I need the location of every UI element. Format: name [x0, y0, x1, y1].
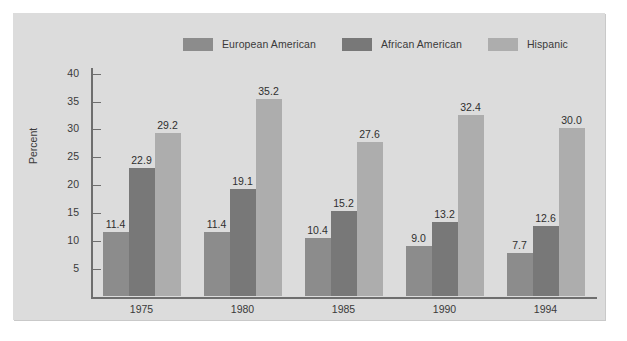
y-tick-label: 10: [67, 234, 79, 246]
bar-group: 11.419.135.21980: [192, 67, 293, 296]
legend-label: African American: [381, 38, 462, 50]
bar[interactable]: 27.6: [357, 142, 383, 296]
y-axis-title: Percent: [27, 128, 39, 164]
bar[interactable]: 32.4: [458, 115, 484, 296]
bar-value-label: 22.9: [131, 154, 151, 166]
bar-value-label: 27.6: [359, 128, 379, 140]
bar-group: 10.415.227.61985: [293, 67, 394, 296]
x-axis-category-label: 1994: [534, 303, 557, 315]
bar-value-label: 12.6: [535, 212, 555, 224]
bar-value-label: 7.7: [512, 239, 527, 251]
bar[interactable]: 29.2: [155, 133, 181, 296]
bar-value-label: 9.0: [411, 232, 426, 244]
bar[interactable]: 13.2: [432, 222, 458, 296]
x-axis-line: [91, 297, 597, 299]
legend-entry[interactable]: European American: [183, 38, 316, 51]
bar[interactable]: 10.4: [305, 238, 331, 296]
chart-legend: European AmericanAfrican AmericanHispani…: [183, 35, 594, 53]
x-axis-category-label: 1980: [231, 303, 254, 315]
chart-panel: European AmericanAfrican AmericanHispani…: [13, 13, 605, 320]
x-axis-category-label: 1990: [433, 303, 456, 315]
legend-label: European American: [222, 38, 316, 50]
y-tick-label: 25: [67, 150, 79, 162]
bar[interactable]: 7.7: [507, 253, 533, 296]
bar-group: 9.013.232.41990: [394, 67, 495, 296]
legend-label: Hispanic: [527, 38, 568, 50]
bar[interactable]: 11.4: [204, 232, 230, 296]
y-tick-label: 20: [67, 178, 79, 190]
legend-swatch-icon: [488, 38, 518, 51]
bar-value-label: 11.4: [207, 218, 227, 230]
bar[interactable]: 12.6: [533, 226, 559, 296]
bar-group: 7.712.630.01994: [495, 67, 596, 296]
y-tick-label: 35: [67, 95, 79, 107]
legend-swatch-icon: [183, 38, 213, 51]
bar[interactable]: 9.0: [406, 246, 432, 296]
chart-figure: European AmericanAfrican AmericanHispani…: [0, 0, 627, 341]
bar-value-label: 13.2: [434, 208, 454, 220]
y-tick-label: 30: [67, 122, 79, 134]
bar-value-label: 35.2: [258, 85, 278, 97]
bar[interactable]: 30.0: [559, 128, 585, 296]
bar-value-label: 11.4: [106, 218, 126, 230]
bar[interactable]: 11.4: [103, 232, 129, 296]
bar-group: 11.422.929.21975: [91, 67, 192, 296]
bar-value-label: 10.4: [307, 224, 327, 236]
bar[interactable]: 19.1: [230, 189, 256, 296]
y-tick-label: 5: [73, 262, 79, 274]
legend-entry[interactable]: African American: [342, 38, 462, 51]
bar-value-label: 30.0: [561, 114, 581, 126]
bar-value-label: 15.2: [333, 197, 353, 209]
y-tick-label: 40: [67, 67, 79, 79]
x-axis-category-label: 1985: [332, 303, 355, 315]
bar[interactable]: 35.2: [256, 99, 282, 296]
bar[interactable]: 22.9: [129, 168, 155, 296]
x-axis-category-label: 1975: [130, 303, 153, 315]
bar[interactable]: 15.2: [331, 211, 357, 296]
bar-value-label: 32.4: [460, 101, 480, 113]
plot-area: 510152025303540 11.422.929.2197511.419.1…: [91, 68, 596, 298]
bar-value-label: 19.1: [232, 175, 252, 187]
y-tick-label: 15: [67, 206, 79, 218]
bar-value-label: 29.2: [157, 119, 177, 131]
legend-entry[interactable]: Hispanic: [488, 38, 568, 51]
legend-swatch-icon: [342, 38, 372, 51]
